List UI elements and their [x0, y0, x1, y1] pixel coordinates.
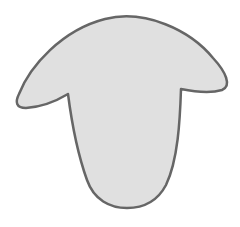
canvas	[0, 0, 240, 227]
sheep-head-shape-icon	[0, 0, 240, 227]
head-outline	[17, 16, 227, 208]
